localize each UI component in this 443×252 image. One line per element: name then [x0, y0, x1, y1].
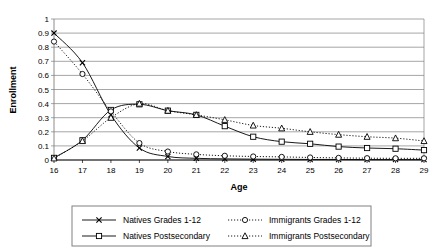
- circle-marker: [279, 154, 284, 159]
- legend-label: Natives Grades 1-12: [123, 215, 201, 225]
- x-tick-label: 17: [78, 166, 87, 175]
- square-marker: [336, 144, 341, 149]
- y-tick-label: 1: [45, 15, 50, 24]
- square-marker: [421, 148, 426, 153]
- x-tick-label: 21: [192, 166, 201, 175]
- y-tick-label: 0.6: [38, 71, 50, 80]
- circle-marker: [51, 39, 56, 44]
- square-marker: [251, 134, 256, 139]
- square-marker: [96, 233, 101, 238]
- x-tick-label: 20: [163, 166, 172, 175]
- circle-marker: [137, 140, 142, 145]
- circle-marker: [421, 156, 426, 161]
- legend-label: Natives Postsecondary: [123, 231, 211, 241]
- x-tick-label: 24: [277, 166, 286, 175]
- x-tick-label: 26: [334, 166, 343, 175]
- square-marker: [279, 139, 284, 144]
- circle-marker: [393, 156, 398, 161]
- square-marker: [364, 145, 369, 150]
- legend-label: Immigrants Grades 1-12: [269, 215, 361, 225]
- x-axis-title: Age: [230, 182, 247, 192]
- y-axis-title: Enrollment: [8, 66, 18, 113]
- y-tick-label: 0.9: [38, 29, 50, 38]
- circle-marker: [222, 153, 227, 158]
- circle-marker: [251, 154, 256, 159]
- legend-label: Immigrants Postsecondary: [269, 231, 370, 241]
- circle-marker: [364, 156, 369, 161]
- circle-marker: [80, 71, 85, 76]
- y-tick-label: 0.1: [38, 142, 50, 151]
- y-tick-label: 0.5: [38, 86, 50, 95]
- enrollment-by-age-chart: 00.10.20.30.40.50.60.70.80.91 1617181920…: [0, 0, 443, 252]
- circle-marker: [308, 155, 313, 160]
- x-tick-label: 27: [363, 166, 372, 175]
- y-tick-label: 0.2: [38, 128, 50, 137]
- x-tick-label: 23: [249, 166, 258, 175]
- x-tick-label: 22: [220, 166, 229, 175]
- chart-legend: Natives Grades 1-12Immigrants Grades 1-1…: [72, 206, 371, 246]
- x-tick-label: 28: [391, 166, 400, 175]
- circle-marker: [108, 109, 113, 114]
- y-tick-label: 0.4: [38, 100, 50, 109]
- y-tick-label: 0: [45, 156, 50, 165]
- square-marker: [393, 146, 398, 151]
- y-tick-label: 0.7: [38, 57, 50, 66]
- x-tick-label: 19: [135, 166, 144, 175]
- circle-marker: [242, 217, 247, 222]
- y-tick-label: 0.8: [38, 43, 50, 52]
- circle-marker: [336, 155, 341, 160]
- x-tick-label: 25: [306, 166, 315, 175]
- x-tick-label: 16: [50, 166, 59, 175]
- x-tick-label: 18: [106, 166, 115, 175]
- circle-marker: [194, 152, 199, 157]
- square-marker: [222, 124, 227, 129]
- circle-marker: [165, 149, 170, 154]
- x-tick-label: 29: [420, 166, 429, 175]
- square-marker: [308, 141, 313, 146]
- chart-canvas: 00.10.20.30.40.50.60.70.80.91 1617181920…: [0, 0, 443, 252]
- y-tick-label: 0.3: [38, 114, 50, 123]
